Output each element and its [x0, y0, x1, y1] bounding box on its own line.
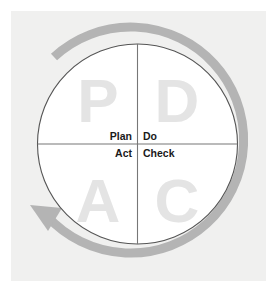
quadrant-label-check: Check [143, 147, 175, 159]
quadrant-label-do: Do [143, 130, 157, 142]
watermark-letter-a: A [76, 166, 121, 235]
watermark-letter-p: P [77, 66, 118, 135]
pdca-diagram: P D A C Plan Do Act Check [0, 0, 276, 294]
watermark-letter-d: D [155, 66, 200, 135]
watermark-letter-c: C [155, 166, 200, 235]
quadrant-label-plan: Plan [110, 130, 132, 142]
quadrant-label-act: Act [115, 147, 132, 159]
pdca-figure: P D A C Plan Do Act Check [0, 0, 276, 294]
